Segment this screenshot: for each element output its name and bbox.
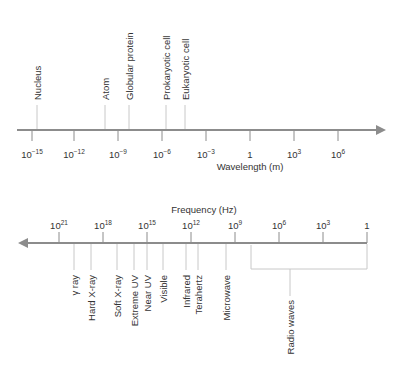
- wavelength-marker-label: Eukaryotic cell: [180, 39, 191, 100]
- wavelength-axis-title: Wavelength (m): [217, 161, 284, 172]
- bracket-line: [251, 244, 367, 269]
- wavelength-tick-label: 1: [247, 149, 252, 160]
- frequency-region-label: Soft X-ray: [112, 275, 123, 317]
- frequency-region-label: Near UV: [142, 274, 153, 311]
- wavelength-tick-label: 103: [287, 148, 302, 160]
- frequency-tick-label: 1: [364, 220, 369, 231]
- wavelength-ticks: 10−1510−1210−910−610−31103106: [21, 130, 345, 160]
- frequency-tick-label: 1012: [182, 219, 200, 231]
- frequency-axis-title: Frequency (Hz): [171, 204, 236, 215]
- frequency-region-label: γ ray: [69, 275, 80, 296]
- radio-waves-label: Radio waves: [285, 300, 296, 355]
- frequency-tick-label: 103: [316, 219, 331, 231]
- frequency-region-label: Extreme UV: [129, 274, 140, 326]
- wavelength-tick-label: 10−6: [153, 148, 171, 160]
- em-spectrum-diagram: 10−1510−1210−910−610−31103106 NucleusAto…: [0, 0, 399, 370]
- frequency-region-label: Hard X-ray: [86, 275, 97, 321]
- wavelength-marker-label: Atom: [100, 78, 111, 100]
- wavelength-tick-label: 10−15: [21, 148, 43, 160]
- wavelength-marker-label: Globular protein: [124, 32, 135, 100]
- wavelength-tick-label: 10−9: [109, 148, 127, 160]
- frequency-tick-label: 109: [228, 219, 243, 231]
- wavelength-marker-label: Nucleus: [32, 65, 43, 100]
- wavelength-tick-label: 106: [331, 148, 346, 160]
- frequency-tick-label: 1018: [94, 219, 112, 231]
- arrow-left-icon: [18, 238, 28, 248]
- frequency-region-label: Microwave: [221, 275, 232, 320]
- frequency-tick-label: 1021: [50, 219, 68, 231]
- frequency-tick-label: 1015: [138, 219, 156, 231]
- wavelength-marker-label: Prokaryotic cell: [161, 36, 172, 100]
- frequency-region-label: Visible: [158, 275, 169, 303]
- frequency-region-label: Infrared: [181, 275, 192, 308]
- wavelength-markers: NucleusAtomGlobular proteinProkaryotic c…: [32, 32, 191, 129]
- wavelength-axis: 10−1510−1210−910−610−31103106 NucleusAto…: [17, 32, 386, 172]
- frequency-axis: Frequency (Hz) 1021101810151012109106103…: [18, 204, 370, 354]
- radio-waves-bracket: Radio waves: [251, 244, 367, 354]
- wavelength-tick-label: 10−12: [63, 148, 85, 160]
- wavelength-tick-label: 10−3: [197, 148, 215, 160]
- frequency-region-label: Terahertz: [193, 275, 204, 315]
- frequency-regions: γ rayHard X-raySoft X-rayExtreme UVNear …: [69, 244, 232, 326]
- arrow-right-icon: [376, 125, 386, 135]
- frequency-tick-label: 106: [272, 219, 287, 231]
- frequency-ticks: 10211018101510121091061031: [50, 219, 370, 243]
